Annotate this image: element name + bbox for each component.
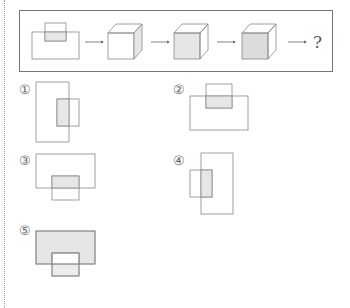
option-1-figure[interactable]	[36, 82, 79, 142]
option-5-figure[interactable]	[36, 231, 95, 276]
seq-cube-2	[174, 24, 208, 59]
option-2-label[interactable]: ②	[173, 83, 185, 96]
option-5-label[interactable]: ⑤	[19, 224, 31, 237]
option-2-figure[interactable]	[190, 84, 248, 130]
option-3-figure[interactable]	[36, 154, 95, 200]
question-mark: ?	[313, 34, 322, 51]
option-3-label[interactable]: ③	[19, 154, 31, 167]
option-4-figure[interactable]	[190, 153, 233, 214]
option-4-label[interactable]: ④	[173, 154, 185, 167]
seq-figure-1	[32, 23, 79, 59]
seq-cube-3	[242, 24, 276, 59]
option-1-label[interactable]: ①	[19, 83, 31, 96]
seq-cube-1	[108, 24, 142, 59]
